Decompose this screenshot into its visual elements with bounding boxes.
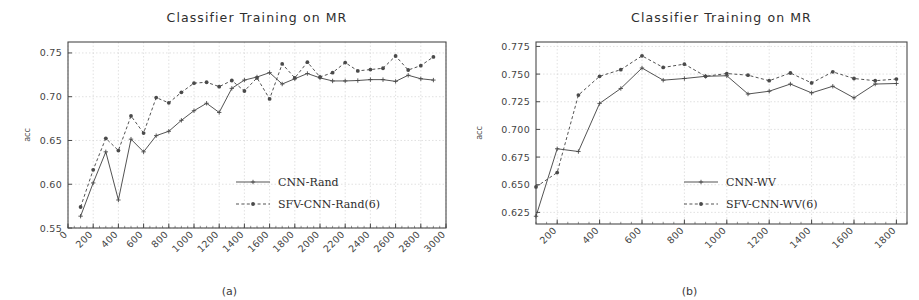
data-point-marker [356, 78, 360, 82]
data-point-marker [661, 66, 665, 70]
y-axis-tick-label: 0.60 [40, 179, 62, 190]
x-axis-tick-label: 1200 [195, 229, 221, 255]
x-axis-tick-label: 1000 [170, 229, 196, 255]
legend-label: CNN-WV [726, 176, 777, 189]
x-axis-tick-label: 1600 [245, 229, 271, 255]
plot-frame [536, 42, 907, 224]
data-point-marker [217, 85, 221, 89]
data-point-marker [306, 60, 310, 64]
data-point-marker [230, 79, 234, 83]
legend-marker [251, 202, 255, 206]
y-axis-tick-label: 0.675 [501, 152, 530, 163]
chart-b-canvas: Classifier Training on MR0.6250.6500.675… [460, 0, 919, 300]
x-axis-tick-label: 1400 [787, 225, 813, 251]
data-point-marker [343, 79, 347, 83]
x-axis-tick-label: 600 [622, 225, 643, 246]
data-point-marker [809, 91, 813, 95]
x-axis-tick-label: 2000 [296, 229, 322, 255]
data-point-marker [104, 150, 108, 154]
legend-marker [699, 202, 703, 206]
data-point-marker [894, 81, 898, 85]
data-point-marker [640, 54, 644, 58]
x-axis-tick-label: 400 [580, 225, 601, 246]
subcaption-b: (b) [460, 285, 919, 298]
data-point-marker [243, 89, 247, 93]
data-point-marker [682, 76, 686, 80]
data-point-marker [577, 93, 581, 97]
series-line-cnn-rand [81, 73, 434, 217]
data-point-marker [104, 136, 108, 140]
y-axis-tick-label: 0.700 [501, 124, 530, 135]
plot-frame [68, 42, 446, 228]
legend-marker [251, 180, 255, 184]
y-axis-tick-label: 0.70 [40, 91, 62, 102]
data-point-marker [142, 131, 146, 135]
legend-label: SFV-CNN-Rand(6) [278, 198, 380, 211]
data-point-marker [789, 71, 793, 75]
x-axis-tick-label: 1400 [220, 229, 246, 255]
y-axis-tick-label: 0.65 [40, 135, 62, 146]
x-axis-tick-label: 2200 [321, 229, 347, 255]
data-point-marker [117, 149, 121, 153]
x-axis-tick-label: 2600 [371, 229, 397, 255]
y-axis-tick-label: 0.625 [501, 207, 530, 218]
chart-title: Classifier Training on MR [631, 10, 812, 25]
x-axis-tick-label: 3000 [422, 229, 448, 255]
data-point-marker [725, 72, 729, 76]
data-point-marker [432, 55, 436, 59]
data-point-marker [180, 90, 184, 94]
data-point-marker [788, 82, 792, 86]
data-point-marker [683, 62, 687, 66]
y-axis-tick-label: 0.725 [501, 96, 530, 107]
y-axis-tick-label: 0.650 [501, 179, 530, 190]
x-axis-tick-label: 200 [73, 229, 94, 250]
data-point-marker [305, 71, 309, 75]
y-axis-tick-label: 0.775 [501, 41, 530, 52]
data-point-marker [268, 97, 272, 101]
figure-two-panel-line-charts: Classifier Training on MR0.550.600.650.7… [0, 0, 919, 300]
data-point-marker [767, 89, 771, 93]
data-point-marker [116, 198, 120, 202]
data-point-marker [406, 68, 410, 72]
data-point-marker [534, 185, 538, 189]
data-point-marker [167, 101, 171, 105]
x-axis-tick-label: 1800 [872, 225, 898, 251]
data-point-marker [534, 214, 538, 218]
data-point-marker [767, 79, 771, 83]
data-point-marker [381, 66, 385, 70]
x-axis-tick-label: 1200 [745, 225, 771, 251]
x-axis-tick-label: 1800 [270, 229, 296, 255]
data-point-marker [393, 79, 397, 83]
x-axis-tick-label: 600 [124, 229, 145, 250]
data-point-marker [431, 78, 435, 82]
data-point-marker [330, 79, 334, 83]
x-axis-tick-label: 800 [149, 229, 170, 250]
subcaption-a: (a) [0, 285, 459, 298]
data-point-marker [576, 149, 580, 153]
data-point-marker [419, 64, 423, 68]
data-point-marker [318, 75, 322, 79]
y-axis-label: acc [23, 128, 32, 142]
data-point-marker [619, 68, 623, 72]
data-point-marker [381, 77, 385, 81]
data-point-marker [280, 62, 284, 66]
data-point-marker [91, 168, 95, 172]
data-point-marker [598, 74, 602, 78]
data-point-marker [331, 71, 335, 75]
series-line-cnn-wv [536, 68, 896, 216]
x-axis-tick-label: 800 [665, 225, 686, 246]
data-point-marker [293, 76, 297, 80]
y-axis-tick-label: 0.75 [40, 47, 62, 58]
data-point-marker [810, 81, 814, 85]
data-point-marker [831, 70, 835, 74]
data-point-marker [129, 114, 133, 118]
chart-panel-a: Classifier Training on MR0.550.600.650.7… [0, 0, 459, 300]
data-point-marker [154, 96, 158, 100]
data-point-marker [369, 68, 373, 72]
x-axis-tick-label: 200 [537, 225, 558, 246]
series-line-sfv-cnn-wv-6 [536, 56, 896, 187]
chart-a-canvas: Classifier Training on MR0.550.600.650.7… [0, 0, 459, 300]
data-point-marker [78, 214, 82, 218]
data-point-marker [661, 78, 665, 82]
data-point-marker [895, 77, 899, 81]
